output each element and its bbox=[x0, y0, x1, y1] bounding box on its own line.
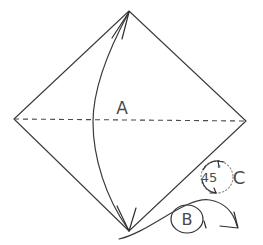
b-sweep-arrow-curve bbox=[119, 200, 237, 239]
vertical-fold-arc bbox=[93, 12, 129, 229]
label-angle-unit: ° bbox=[217, 165, 221, 174]
kite-outline bbox=[14, 11, 246, 231]
kite-fold-diagram: A 45 ° C B bbox=[0, 0, 263, 245]
label-angle-value: 45 bbox=[201, 170, 218, 185]
fold-arc-bottom-arrowhead-left bbox=[117, 206, 129, 231]
b-sweep-tick-mark bbox=[204, 221, 206, 228]
diagram-canvas: A 45 ° C B bbox=[0, 0, 263, 245]
horizontal-dashed-axis bbox=[14, 119, 246, 121]
label-c: C bbox=[233, 167, 246, 188]
label-a: A bbox=[116, 98, 128, 118]
label-b: B bbox=[182, 210, 193, 229]
